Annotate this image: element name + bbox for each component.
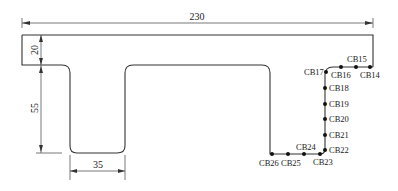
point-cb24-label: CB24 [296,142,317,152]
point-cb19-label: CB19 [329,99,349,109]
point-cb24-marker [302,152,306,156]
point-cb20-marker [323,117,327,121]
web-width-dimension: 35 [70,155,125,180]
point-cb25-marker [286,152,290,156]
point-cb18-label: CB18 [329,83,349,93]
point-cb19-marker [323,102,327,106]
point-cb14-marker [368,65,372,69]
point-cb26-label: CB26 [259,158,279,168]
section-diagram: 230 20 55 35 CB14 CB15 CB16 CB17 [0,0,398,191]
point-cb22-marker [323,148,327,152]
point-cb18-marker [323,86,327,90]
web-width-label: 35 [93,159,103,170]
point-cb23-label: CB23 [313,157,333,167]
point-cb17-label: CB17 [304,67,324,77]
point-cb14-label: CB14 [360,70,381,80]
point-cb23-marker [318,152,322,156]
point-cb21-label: CB21 [329,130,349,140]
point-cb26-marker [270,152,274,156]
overall-width-dimension: 230 [22,11,373,28]
point-cb16-marker [339,65,343,69]
diagram-svg: 230 20 55 35 CB14 CB15 CB16 CB17 [0,0,398,191]
overall-width-label: 230 [190,11,205,22]
flange-thickness-label: 20 [29,45,40,55]
point-cb17-marker [324,70,328,74]
web-depth-label: 55 [29,103,40,113]
point-cb15-marker [354,65,358,69]
measurement-points: CB14 CB15 CB16 CB17 CB18 CB19 CB20 CB21 … [259,54,381,168]
point-cb20-label: CB20 [329,114,349,124]
point-cb25-label: CB25 [281,158,301,168]
web-depth-dimension: 55 [29,65,62,153]
point-cb15-label: CB15 [347,54,367,64]
point-cb21-marker [323,133,327,137]
flange-thickness-dimension: 20 [29,35,43,65]
section-outline [22,35,373,154]
point-cb22-label: CB22 [329,145,349,155]
point-cb16-label: CB16 [331,70,351,80]
